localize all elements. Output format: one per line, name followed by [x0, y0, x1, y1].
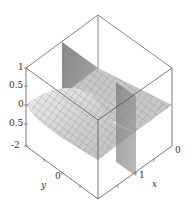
z-tick-label: 1	[18, 63, 24, 72]
y-tick-label: -2	[11, 141, 20, 150]
y-axis-label: y	[41, 181, 46, 190]
x-tick-label: 1	[139, 171, 145, 180]
y-tick-label: 0	[55, 172, 61, 181]
x-axis-label: x	[152, 180, 157, 189]
z-tick-label: 0	[18, 100, 24, 109]
vertical-plane-front	[116, 82, 136, 176]
z-tick-label: 0.5	[9, 81, 23, 90]
z-tick-label: 0.5	[9, 119, 23, 128]
x-tick-label: 0	[175, 146, 181, 155]
surface-plot	[0, 0, 191, 206]
